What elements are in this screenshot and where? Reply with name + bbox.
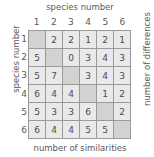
column-header: 5 — [97, 15, 114, 29]
column-header: 2 — [45, 15, 62, 29]
matrix-cell: 4 — [97, 67, 113, 84]
matrix-cell: 6 — [29, 85, 45, 102]
matrix-cell: 2 — [114, 85, 130, 102]
matrix-cell: 3 — [114, 49, 130, 66]
row-header: 5 — [14, 103, 27, 121]
bottom-axis-title: number of similarities — [14, 143, 146, 154]
matrix-cell: 6 — [80, 103, 96, 120]
matrix-cell — [97, 103, 113, 120]
matrix-cell: 2 — [46, 31, 62, 48]
matrix-cell — [80, 85, 96, 102]
matrix-cell: 3 — [80, 67, 96, 84]
matrix-cell: 7 — [46, 67, 62, 84]
matrix-cell: 3 — [46, 103, 62, 120]
column-header: 4 — [80, 15, 97, 29]
matrix-cell: 2 — [63, 31, 79, 48]
column-header: 1 — [28, 15, 45, 29]
matrix-cell: 1 — [80, 31, 96, 48]
top-axis-title: species number — [28, 2, 132, 13]
matrix-cell — [114, 121, 130, 138]
row-header: 6 — [14, 121, 27, 139]
matrix-cell — [46, 49, 62, 66]
matrix-cell: 4 — [63, 85, 79, 102]
matrix-cell: 0 — [63, 49, 79, 66]
matrix-cell: 5 — [80, 121, 96, 138]
matrix-cell: 2 — [114, 103, 130, 120]
matrix-cell: 4 — [46, 121, 62, 138]
matrix-cell: 4 — [63, 121, 79, 138]
matrix-grid: 2 2 1 2 1 5 0 3 4 3 5 7 3 4 3 6 4 4 1 2 … — [28, 30, 131, 139]
matrix-cell: 1 — [97, 85, 113, 102]
matrix-cell: 5 — [29, 49, 45, 66]
matrix-cell: 3 — [80, 49, 96, 66]
matrix-cell: 4 — [97, 49, 113, 66]
column-header: 6 — [114, 15, 131, 29]
matrix-cell: 4 — [46, 85, 62, 102]
matrix-cell — [63, 67, 79, 84]
left-axis-title: species number — [11, 13, 21, 105]
matrix-cell: 2 — [97, 31, 113, 48]
right-axis-title: number of differences — [142, 7, 152, 111]
matrix-cell: 5 — [29, 67, 45, 84]
column-header: 3 — [62, 15, 79, 29]
matrix-cell: 6 — [29, 121, 45, 138]
matrix-cell: 5 — [97, 121, 113, 138]
matrix-cell — [29, 31, 45, 48]
similarity-difference-matrix: species number 1 2 3 4 5 6 1 2 3 4 5 6 2… — [0, 0, 154, 157]
column-header-row: 1 2 3 4 5 6 — [28, 15, 131, 29]
matrix-cell: 3 — [63, 103, 79, 120]
matrix-cell: 3 — [114, 67, 130, 84]
matrix-cell: 1 — [114, 31, 130, 48]
matrix-cell: 5 — [29, 103, 45, 120]
